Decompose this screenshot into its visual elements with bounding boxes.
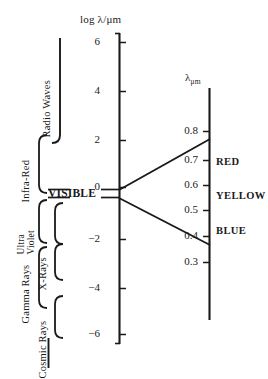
tick-label-log-minus-4: −4 <box>74 282 100 293</box>
bracket-x-rays <box>55 203 63 244</box>
bracket-ultra-violet <box>39 200 47 243</box>
band-label-x-rays: X-Rays <box>38 257 49 290</box>
band-label-gamma-rays: Gamma Rays <box>21 265 32 324</box>
visible-band-label: VISIBLE <box>48 188 96 200</box>
bracket-x-rays-lower <box>55 244 63 280</box>
tick-label-log-minus-6: −6 <box>74 328 100 339</box>
tick-label-log-2: 2 <box>78 134 100 145</box>
tick-label-log-minus-2: −2 <box>74 233 100 244</box>
tick-label-lambda-0-5: 0.5 <box>168 204 198 215</box>
log-lambda-axis-title: log λ/μm <box>80 14 121 25</box>
band-label-radio-waves: Radio Waves <box>42 80 53 137</box>
color-label-red: RED <box>216 157 239 168</box>
band-label-ultra-violet-line2: Violet <box>27 230 37 254</box>
color-label-blue: BLUE <box>216 226 246 237</box>
bracket-cosmic-rays <box>55 296 63 338</box>
bracket-infra-red <box>39 135 47 193</box>
bracket-radio-waves <box>52 38 60 143</box>
visible-lambda-axis-title: λμm <box>185 72 201 86</box>
band-label-infra-red: Infra-Red <box>21 160 32 203</box>
tick-label-lambda-0-8: 0.8 <box>168 125 198 136</box>
tick-label-lambda-0-7: 0.7 <box>168 154 198 165</box>
tick-label-lambda-0-3: 0.3 <box>168 256 198 267</box>
tick-label-lambda-0-4: 0.4 <box>168 230 198 241</box>
tick-label-log-4: 4 <box>78 85 100 96</box>
tick-label-log-6: 6 <box>78 36 100 47</box>
tick-label-lambda-0-6: 0.6 <box>168 179 198 190</box>
band-label-cosmic-rays: Cosmic Rays <box>38 321 49 379</box>
color-label-yellow: YELLOW <box>216 191 266 202</box>
lambda-subscript: μm <box>191 77 201 86</box>
